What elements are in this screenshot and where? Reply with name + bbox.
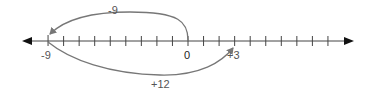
jump-label-minus-9: -9 xyxy=(108,5,118,16)
point-label-plus-3: +3 xyxy=(227,50,240,61)
right-arrow-icon xyxy=(344,37,354,45)
point-label-neg-9: -9 xyxy=(41,50,51,61)
jump-label-plus-12: +12 xyxy=(151,79,170,90)
jump-arc-plus-12 xyxy=(48,42,233,75)
number-line-svg xyxy=(0,0,368,96)
jump-arc-minus-9 xyxy=(50,12,188,40)
left-arrow-icon xyxy=(22,37,32,45)
point-label-zero: 0 xyxy=(184,50,190,61)
number-line-diagram: -9 +12 -9 0 +3 xyxy=(0,0,368,96)
